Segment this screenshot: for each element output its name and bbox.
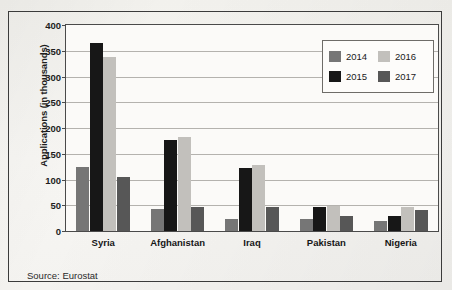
bar-syria-2014 — [76, 167, 89, 231]
legend-label-2017: 2017 — [395, 71, 416, 82]
source-note: Source: Eurostat — [27, 270, 98, 281]
x-axis-category-label: Iraq — [215, 237, 289, 248]
bar-syria-2015 — [90, 43, 103, 231]
bar-group: Syria — [66, 25, 140, 231]
legend: 2014201620152017 — [322, 40, 434, 93]
x-axis-category-label: Syria — [66, 237, 140, 248]
bar-iraq-2017 — [266, 207, 279, 231]
bar-pakistan-2017 — [340, 216, 353, 231]
chart-screenshot: Applications (in thousands) 050100150200… — [0, 0, 452, 290]
bar-afghanistan-2014 — [151, 209, 164, 231]
x-axis-category-label: Nigeria — [364, 237, 438, 248]
bar-group: Afghanistan — [140, 25, 214, 231]
bar-syria-2017 — [117, 177, 130, 231]
x-axis-category-label: Afghanistan — [140, 237, 214, 248]
legend-row: 20142016 — [329, 46, 427, 66]
y-axis-tick-label: 400 — [45, 20, 61, 31]
y-axis-tick-label: 300 — [45, 71, 61, 82]
y-axis-tick-label: 0 — [56, 226, 61, 237]
y-axis-tick-label: 100 — [45, 174, 61, 185]
legend-item-2017[interactable]: 2017 — [378, 71, 427, 82]
bar-iraq-2016 — [252, 165, 265, 231]
legend-item-2016[interactable]: 2016 — [378, 51, 427, 62]
bar-syria-2016 — [103, 57, 116, 231]
bar-nigeria-2014 — [374, 221, 387, 231]
bar-pakistan-2015 — [313, 207, 326, 231]
y-axis-tick-label: 200 — [45, 123, 61, 134]
legend-label-2016: 2016 — [395, 51, 416, 62]
bar-pakistan-2016 — [327, 206, 340, 231]
bar-nigeria-2017 — [415, 210, 428, 231]
bar-pakistan-2014 — [300, 219, 313, 231]
legend-swatch-2016 — [378, 51, 390, 62]
legend-swatch-2017 — [378, 71, 390, 82]
legend-row: 20152017 — [329, 66, 427, 86]
bar-group: Iraq — [215, 25, 289, 231]
x-axis-category-label: Pakistan — [289, 237, 363, 248]
bar-afghanistan-2017 — [191, 207, 204, 231]
bar-afghanistan-2016 — [178, 137, 191, 231]
bar-nigeria-2015 — [388, 216, 401, 231]
bar-nigeria-2016 — [401, 207, 414, 231]
y-axis-tick-label: 150 — [45, 148, 61, 159]
legend-item-2014[interactable]: 2014 — [329, 51, 378, 62]
legend-label-2014: 2014 — [346, 51, 367, 62]
bar-iraq-2014 — [225, 219, 238, 231]
legend-item-2015[interactable]: 2015 — [329, 71, 378, 82]
bar-afghanistan-2015 — [164, 140, 177, 231]
y-axis-tick-mark — [62, 231, 66, 232]
legend-swatch-2014 — [329, 51, 341, 62]
legend-label-2015: 2015 — [346, 71, 367, 82]
figure-frame: Applications (in thousands) 050100150200… — [8, 11, 442, 282]
y-axis-tick-label: 250 — [45, 97, 61, 108]
bar-iraq-2015 — [239, 168, 252, 231]
legend-swatch-2015 — [329, 71, 341, 82]
y-axis-tick-label: 50 — [50, 200, 61, 211]
y-axis-tick-label: 350 — [45, 45, 61, 56]
